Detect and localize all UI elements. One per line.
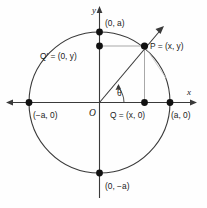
circle-diagram-figure: y x O (0, a) (0, −a) (−a, 0) (a, 0) P = … bbox=[0, 0, 207, 208]
point-left bbox=[26, 99, 33, 106]
label-bottom-point: (0, −a) bbox=[105, 181, 130, 191]
label-right-point: (a, 0) bbox=[171, 110, 191, 120]
label-p-point: P = (x, y) bbox=[150, 41, 184, 51]
label-qprime-point: Q′ = (0, y) bbox=[40, 51, 77, 61]
y-axis-arrow-up bbox=[97, 6, 103, 13]
point-p bbox=[141, 42, 148, 49]
point-top bbox=[96, 29, 103, 36]
label-angle-theta: θ bbox=[117, 88, 122, 98]
origin-label: O bbox=[89, 108, 96, 118]
circle-diagram-svg: y x O (0, a) (0, −a) (−a, 0) (a, 0) P = … bbox=[0, 0, 207, 208]
y-axis-label: y bbox=[91, 5, 96, 15]
x-axis-arrow-left bbox=[6, 100, 13, 106]
point-q bbox=[141, 99, 148, 106]
label-q-point: Q = (x, 0) bbox=[110, 110, 145, 120]
point-qprime bbox=[96, 43, 103, 50]
point-bottom bbox=[96, 170, 103, 177]
point-right bbox=[167, 99, 174, 106]
x-axis-arrow-right bbox=[190, 100, 197, 106]
x-axis-label: x bbox=[186, 87, 191, 97]
label-left-point: (−a, 0) bbox=[33, 110, 58, 120]
label-top-point: (0, a) bbox=[105, 18, 125, 28]
ray-op-arrowhead bbox=[156, 26, 165, 34]
